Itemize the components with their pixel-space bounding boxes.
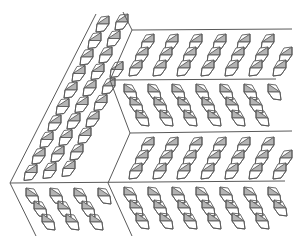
parallelogram-tile [64, 82, 77, 98]
parallelogram-tile [32, 148, 45, 164]
parallelogram-tile [225, 163, 238, 179]
parallelogram-tile [201, 163, 214, 179]
parallelogram-tile [48, 115, 61, 131]
parallelogram-tile [249, 60, 262, 76]
parallelogram-tile [273, 60, 286, 76]
parallelogram-tile [88, 33, 101, 49]
band-line-4 [10, 181, 285, 183]
tile-layer [24, 14, 292, 230]
parallelogram-tile [43, 163, 56, 179]
parallelogram-tile [91, 64, 104, 80]
parallelogram-tile [78, 128, 91, 144]
parallelogram-tile [51, 146, 64, 162]
parallelogram-tile [201, 60, 214, 76]
parallelogram-tile [67, 113, 80, 129]
band-line-2 [110, 79, 276, 80]
parallelogram-tile [62, 161, 75, 177]
left-inner-low [108, 133, 130, 183]
parallelogram-tile [115, 14, 128, 30]
parallelogram-tile [249, 163, 262, 179]
parallelogram-tile [94, 95, 107, 111]
parallelogram-tile [107, 31, 120, 47]
band-line-1 [132, 29, 292, 30]
parallelogram-tile [40, 132, 53, 148]
parallelogram-tile [96, 16, 109, 32]
parallelogram-tile [153, 60, 166, 76]
parallelogram-tile [153, 163, 166, 179]
parallelogram-tile [225, 60, 238, 76]
parallelogram-tile [98, 188, 111, 204]
parallelogram-tile [59, 130, 72, 146]
parallelogram-tile [24, 165, 37, 181]
parallelogram-tile [70, 144, 83, 160]
parallelogram-tile [90, 214, 103, 230]
parallelogram-tile [80, 49, 93, 65]
parallelogram-tile [99, 47, 112, 63]
parallelogram-tile [56, 99, 69, 115]
tessellation-diagram [0, 0, 307, 247]
parallelogram-tile [177, 163, 190, 179]
parallelogram-tile [129, 163, 142, 179]
parallelogram-tile [66, 214, 79, 230]
diagram-svg [0, 0, 307, 247]
parallelogram-tile [86, 111, 99, 127]
band-line-3 [130, 131, 292, 133]
parallelogram-tile [129, 60, 142, 76]
parallelogram-tile [72, 66, 85, 82]
left-outer-lower [10, 183, 36, 236]
parallelogram-tile [83, 80, 96, 96]
parallelogram-tile [268, 84, 281, 100]
parallelogram-tile [273, 163, 286, 179]
parallelogram-tile [177, 60, 190, 76]
parallelogram-tile [75, 97, 88, 113]
parallelogram-tile [42, 214, 55, 230]
